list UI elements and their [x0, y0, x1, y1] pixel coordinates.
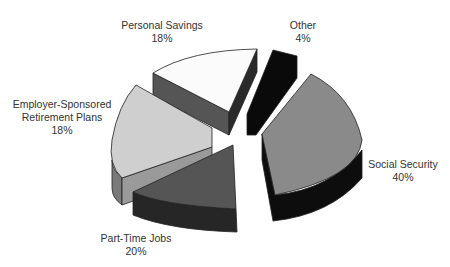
label-employer-line2: Retirement Plans — [12, 111, 112, 124]
label-employer-line1: Employer-Sponsored — [12, 98, 112, 111]
label-personal-savings: Personal Savings 18% — [118, 19, 206, 45]
label-other-pct: 4% — [283, 32, 323, 45]
label-part-time-pct: 20% — [96, 245, 176, 258]
label-part-time-jobs: Part-Time Jobs 20% — [96, 232, 176, 258]
label-other-name: Other — [283, 19, 323, 32]
label-personal-savings-pct: 18% — [118, 32, 206, 45]
label-social-security-name: Social Security — [363, 158, 443, 171]
label-personal-savings-name: Personal Savings — [118, 19, 206, 32]
label-social-security-pct: 40% — [363, 171, 443, 184]
label-social-security: Social Security 40% — [363, 158, 443, 184]
label-employer-sponsored: Employer-Sponsored Retirement Plans 18% — [12, 98, 112, 137]
label-employer-pct: 18% — [12, 124, 112, 137]
label-other: Other 4% — [283, 19, 323, 45]
label-part-time-name: Part-Time Jobs — [96, 232, 176, 245]
